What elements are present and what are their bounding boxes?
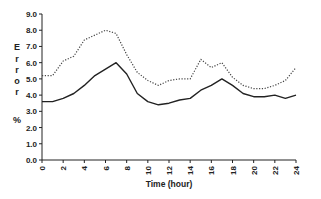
series-group [42, 30, 296, 105]
x-tick-label: 24 [292, 165, 301, 174]
y-tick-label: 5.0 [26, 75, 38, 84]
svg-text:r: r [15, 54, 19, 64]
x-tick-label: 6 [102, 165, 111, 170]
y-tick-label: 8.0 [26, 26, 38, 35]
y-tick-label: 4.0 [26, 91, 38, 100]
x-tick-label: 4 [80, 165, 89, 170]
svg-text:r: r [15, 87, 19, 97]
svg-text:r: r [15, 65, 19, 75]
x-tick-label: 2 [59, 165, 68, 170]
x-tick-label: 0 [38, 165, 47, 170]
x-tick-label: 16 [207, 165, 216, 174]
y-axis-label: Error% [13, 42, 21, 125]
x-tick-label: 10 [144, 165, 153, 174]
x-axis: 024681012141618202224 [38, 160, 301, 175]
y-tick-label: 7.0 [26, 42, 38, 51]
y-tick-label: 9.0 [26, 10, 38, 19]
y-tick-label: 2.0 [26, 124, 38, 133]
x-tick-label: 14 [186, 165, 195, 174]
y-tick-label: 0.0 [26, 156, 38, 165]
y-axis: 0.01.02.03.04.05.06.07.08.09.0 [26, 10, 42, 165]
x-tick-label: 20 [250, 165, 259, 174]
x-tick-label: 22 [271, 165, 280, 174]
line-chart: 0.01.02.03.04.05.06.07.08.09.0 024681012… [0, 0, 321, 199]
x-tick-label: 12 [165, 165, 174, 174]
svg-text:E: E [14, 42, 20, 52]
svg-text:%: % [13, 115, 21, 125]
series-line-dotted [42, 30, 296, 88]
x-tick-label: 18 [229, 165, 238, 174]
x-tick-label: 8 [123, 165, 132, 170]
svg-text:o: o [14, 76, 20, 86]
series-line-solid [42, 63, 296, 105]
x-axis-label: Time (hour) [146, 179, 193, 189]
y-tick-label: 1.0 [26, 140, 38, 149]
y-tick-label: 3.0 [26, 107, 38, 116]
y-tick-label: 6.0 [26, 59, 38, 68]
